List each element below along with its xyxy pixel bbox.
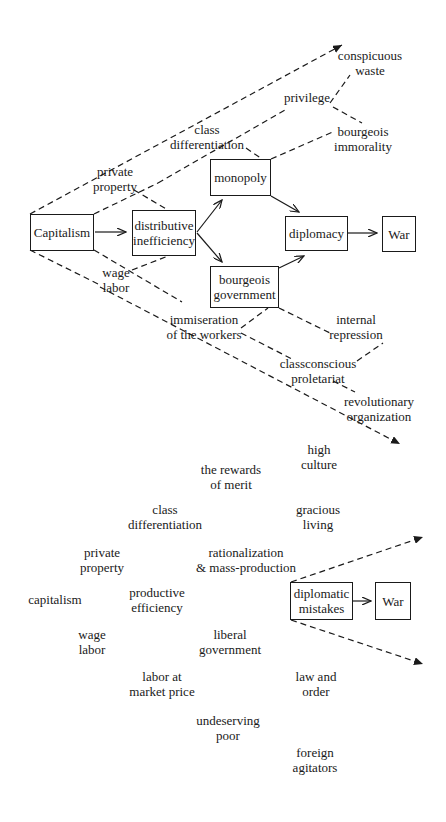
label-class-differentiation-2: class differentiation (128, 502, 202, 532)
label-liberal-government: liberal government (199, 627, 261, 657)
label-line: organization (344, 409, 414, 424)
box-bourgeois-government: bourgeois government (210, 266, 279, 308)
label-line: differentiation (170, 137, 244, 152)
label-classconscious-proletariat: classconscious proletariat (280, 356, 357, 386)
label-line: of the workers (166, 327, 241, 342)
box-label: government (213, 287, 275, 302)
label-line: proletariat (280, 371, 357, 386)
label-line: private (93, 164, 137, 179)
label-internal-repression: internal repression (329, 312, 382, 342)
label-line: market price (129, 684, 194, 699)
label-line: classconscious (280, 356, 357, 371)
label-line: class (128, 502, 202, 517)
label-the-rewards-of-merit: the rewards of merit (201, 462, 261, 492)
label-line: private (80, 545, 124, 560)
box-label: diplomatic (294, 586, 350, 601)
label-immiseration-of-the-workers: immiseration of the workers (166, 312, 241, 342)
box-diplomacy: diplomacy (285, 216, 348, 251)
label-line: living (296, 517, 340, 532)
box-label: bourgeois (219, 272, 270, 287)
label-line: agitators (293, 760, 338, 775)
label-wage-labor-2: wage labor (78, 627, 105, 657)
arrow-distributive-government (197, 233, 222, 262)
label-line: culture (301, 457, 337, 472)
label-line: & mass-production (196, 560, 296, 575)
box-label: mistakes (299, 601, 345, 616)
box-monopoly: monopoly (210, 159, 271, 196)
label-wage-labor: wage labor (102, 265, 129, 295)
box-label: distributive (134, 218, 193, 233)
box-label: diplomacy (289, 226, 344, 241)
label-productive-efficiency: productive efficiency (129, 585, 185, 615)
label-line: productive (129, 585, 185, 600)
dashed-mistakes-up (291, 537, 423, 582)
label-line: repression (329, 327, 382, 342)
diagram-canvas: Capitalism distributive inefficiency mon… (0, 0, 446, 822)
label-line: the rewards (201, 462, 261, 477)
label-line: gracious (296, 502, 340, 517)
label-line: conspicuous (338, 48, 402, 63)
arrow-distributive-monopoly (197, 200, 222, 232)
label-bourgeois-immorality: bourgeois immorality (334, 124, 392, 154)
label-line: of merit (201, 477, 261, 492)
label-class-differentiation: class differentiation (170, 122, 244, 152)
label-line: immiseration (166, 312, 241, 327)
label-privilege: privilege (284, 90, 330, 105)
label-line: undeserving (196, 713, 260, 728)
label-line: wage (102, 265, 129, 280)
label-line: property (80, 560, 124, 575)
label-line: wage (78, 627, 105, 642)
box-war-2: War (375, 582, 411, 620)
label-line: rationalization (196, 545, 296, 560)
label-line: internal (329, 312, 382, 327)
box-label: inefficiency (133, 233, 195, 248)
label-labor-at-market-price: labor at market price (129, 669, 194, 699)
arrow-government-diplomacy (279, 256, 304, 268)
box-label: War (388, 227, 409, 242)
label-line: law and (296, 669, 337, 684)
label-high-culture: high culture (301, 442, 337, 472)
label-line: order (296, 684, 337, 699)
label-line: capitalism (28, 592, 81, 607)
label-line: property (93, 179, 137, 194)
label-capitalism-2: capitalism (28, 592, 81, 607)
dashed-mistakes-down (291, 620, 423, 664)
box-label: Capitalism (34, 225, 90, 240)
label-line: poor (196, 728, 260, 743)
label-foreign-agitators: foreign agitators (293, 745, 338, 775)
label-revolutionary-organization: revolutionary organization (344, 394, 414, 424)
box-label: War (382, 594, 403, 609)
label-line: liberal (199, 627, 261, 642)
label-undeserving-poor: undeserving poor (196, 713, 260, 743)
label-gracious-living: gracious living (296, 502, 340, 532)
label-line: labor (78, 642, 105, 657)
arrow-monopoly-diplomacy (271, 196, 299, 212)
box-war: War (382, 216, 416, 252)
label-line: privilege (284, 90, 330, 105)
label-conspicuous-waste: conspicuous waste (338, 48, 402, 78)
label-private-property: private property (93, 164, 137, 194)
box-label: monopoly (214, 170, 267, 185)
label-line: efficiency (129, 600, 185, 615)
box-diplomatic-mistakes: diplomatic mistakes (290, 582, 353, 620)
box-capitalism: Capitalism (30, 214, 94, 251)
label-private-property-2: private property (80, 545, 124, 575)
label-line: high (301, 442, 337, 457)
label-line: government (199, 642, 261, 657)
label-line: waste (338, 63, 402, 78)
label-line: revolutionary (344, 394, 414, 409)
label-law-and-order: law and order (296, 669, 337, 699)
label-line: bourgeois (334, 124, 392, 139)
label-line: labor at (129, 669, 194, 684)
box-distributive-inefficiency: distributive inefficiency (132, 210, 196, 256)
label-line: differentiation (128, 517, 202, 532)
label-line: labor (102, 280, 129, 295)
label-line: immorality (334, 139, 392, 154)
label-line: foreign (293, 745, 338, 760)
label-rationalization-mass-production: rationalization & mass-production (196, 545, 296, 575)
label-line: class (170, 122, 244, 137)
